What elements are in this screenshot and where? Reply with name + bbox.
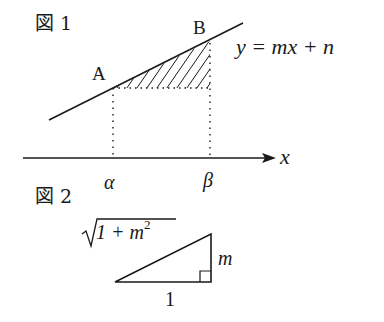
alpha-label: α [104,172,115,192]
base-side-label: 1 [165,289,175,309]
figure-2-label: 図 2 [35,187,72,206]
figure-1-label: 図 1 [35,14,72,33]
line-y-mx-n [49,23,243,120]
point-a-label: A [92,64,106,83]
hypotenuse-exponent: 2 [144,217,151,232]
x-axis-label: x [280,146,290,168]
hypotenuse-label: 1 + m2 [96,220,150,242]
beta-label: β [203,170,213,190]
vertical-side-label: m [218,248,232,268]
right-angle-mark [200,271,211,282]
line-equation-label: y = mx + n [236,36,334,58]
hypotenuse-base: 1 + m [96,221,144,243]
hatched-region [110,40,250,98]
point-b-label: B [193,18,206,37]
